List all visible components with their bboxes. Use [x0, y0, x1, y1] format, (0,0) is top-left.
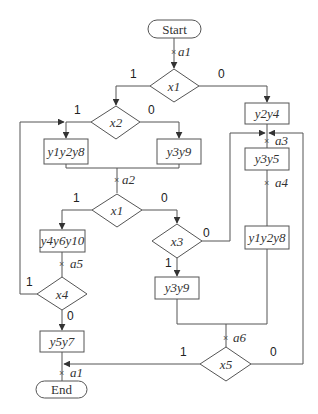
svg-text:y3y5: y3y5	[253, 151, 280, 166]
decision-x1-mid: x1	[92, 194, 142, 227]
svg-text:0: 0	[67, 309, 74, 323]
operation-y3y5: y3y5	[245, 148, 289, 170]
marker-a6: a6	[233, 330, 247, 345]
start-label: Start	[162, 22, 187, 37]
end-terminal: End	[36, 381, 87, 398]
svg-text:y1y2y8: y1y2y8	[247, 230, 286, 245]
decision-x4: x4	[37, 277, 87, 310]
svg-text:x1: x1	[167, 79, 180, 94]
operation-y3y9-bottom: y3y9	[155, 277, 199, 299]
svg-text:1: 1	[73, 191, 80, 205]
svg-text:y2y4: y2y4	[253, 106, 280, 121]
end-label: End	[51, 382, 72, 397]
marker-cross-icon: ×	[114, 175, 119, 185]
svg-text:0: 0	[161, 191, 168, 205]
marker-a5: a5	[70, 256, 84, 271]
svg-text:y3y9: y3y9	[163, 280, 190, 295]
svg-text:y1y2y8: y1y2y8	[46, 144, 85, 159]
svg-text:y4y6y10: y4y6y10	[39, 233, 85, 248]
marker-cross-icon: ×	[171, 47, 176, 57]
svg-text:x3: x3	[170, 234, 184, 249]
marker-a1-top: a1	[178, 44, 191, 59]
svg-text:1: 1	[165, 256, 172, 270]
marker-cross-icon: ×	[59, 368, 64, 378]
operation-y2y4: y2y4	[245, 103, 289, 124]
operation-y5y7: y5y7	[40, 331, 84, 352]
operation-y3y9-top: y3y9	[157, 139, 201, 164]
svg-text:x4: x4	[55, 287, 69, 302]
svg-text:1: 1	[180, 345, 187, 359]
marker-cross-icon: ×	[59, 259, 64, 269]
svg-text:1: 1	[130, 67, 137, 81]
svg-text:0: 0	[148, 103, 155, 117]
svg-text:0: 0	[203, 226, 210, 240]
svg-text:x5: x5	[219, 357, 233, 372]
svg-text:1: 1	[26, 275, 33, 289]
decision-x3: x3	[152, 224, 202, 258]
edge-labels: 1 0 1 0 1 0 0 1 1 0 1 0	[26, 67, 277, 359]
svg-text:0: 0	[270, 345, 277, 359]
decision-x5: x5	[200, 347, 251, 381]
marker-cross-icon: ×	[264, 136, 269, 146]
operation-y4y6y10: y4y6y10	[39, 230, 85, 252]
marker-a2: a2	[122, 172, 136, 187]
svg-text:0: 0	[218, 67, 225, 81]
marker-cross-icon: ×	[264, 178, 269, 188]
marker-cross-icon: ×	[223, 333, 228, 343]
decision-x1-top: x1	[150, 69, 199, 102]
svg-text:y3y9: y3y9	[165, 144, 192, 159]
marker-a4: a4	[275, 175, 289, 190]
operation-y1y2y8-left: y1y2y8	[44, 139, 88, 164]
svg-text:1: 1	[74, 103, 81, 117]
operation-y1y2y8-right: y1y2y8	[245, 226, 289, 249]
svg-text:y5y7: y5y7	[48, 334, 75, 349]
marker-a3: a3	[275, 133, 289, 148]
svg-text:x1: x1	[110, 203, 123, 218]
decision-x2: x2	[91, 106, 140, 139]
svg-text:x2: x2	[109, 115, 123, 130]
start-terminal: Start	[148, 20, 201, 38]
flowchart-canvas: Start End x1 x2 x1 x3 x4 x5 y2y4 y1y2y8 …	[0, 0, 318, 414]
marker-a1-bottom: a1	[70, 365, 83, 380]
